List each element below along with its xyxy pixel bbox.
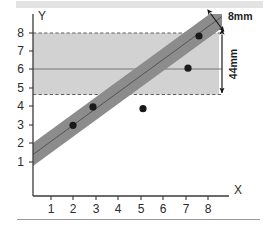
range-height-label: 44mm bbox=[227, 49, 239, 79]
y-tick-label: 2 bbox=[17, 136, 24, 150]
x-axis-label: X bbox=[234, 183, 242, 197]
x-tick-label: 5 bbox=[138, 202, 145, 216]
data-point bbox=[69, 122, 76, 129]
data-point bbox=[89, 103, 96, 110]
y-axis-label: Y bbox=[38, 9, 46, 23]
x-tick-label: 6 bbox=[160, 202, 167, 216]
y-tick-label: 1 bbox=[17, 155, 24, 169]
x-tick-label: 2 bbox=[70, 202, 77, 216]
range-height-annotation: 44mm bbox=[222, 35, 239, 94]
data-point bbox=[139, 105, 146, 112]
x-tick-label: 8 bbox=[205, 202, 212, 216]
x-tick-label: 1 bbox=[48, 202, 55, 216]
scatter-plot: 8 7 6 5 4 3 2 1 1 2 3 4 5 6 7 8 Y X bbox=[0, 0, 270, 227]
y-tick-label: 6 bbox=[17, 62, 24, 76]
y-tick-label: 4 bbox=[17, 99, 24, 113]
x-tick-label: 7 bbox=[183, 202, 190, 216]
y-tick-labels: 8 7 6 5 4 3 2 1 bbox=[17, 26, 24, 169]
x-tick-labels: 1 2 3 4 5 6 7 8 bbox=[48, 202, 212, 216]
data-point bbox=[195, 32, 202, 39]
y-tick-label: 8 bbox=[17, 26, 24, 40]
x-tick-label: 4 bbox=[115, 202, 122, 216]
y-tick-label: 7 bbox=[17, 44, 24, 58]
data-point bbox=[184, 65, 191, 72]
y-tick-label: 5 bbox=[17, 81, 24, 95]
band-width-label: 8mm bbox=[228, 10, 253, 22]
y-tick-label: 3 bbox=[17, 118, 24, 132]
x-tick-label: 3 bbox=[93, 202, 100, 216]
figure-canvas: 8 7 6 5 4 3 2 1 1 2 3 4 5 6 7 8 Y X bbox=[0, 0, 270, 227]
